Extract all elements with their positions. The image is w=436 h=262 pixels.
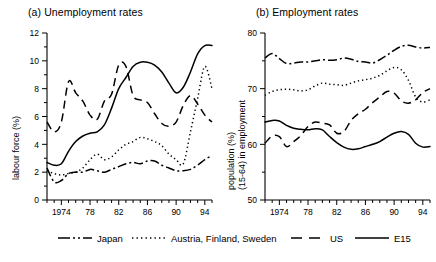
legend-item-e15: E15 — [355, 228, 411, 248]
chart-panel-a: (a) Unemployment rates 02468101219747882… — [0, 0, 218, 225]
x-tick-label: 86 — [143, 207, 153, 217]
legend-label-austria-finland-sweden: Austria, Finland, Sweden — [171, 233, 277, 244]
legend-item-japan: Japan — [58, 228, 123, 248]
series-line-japan — [47, 155, 212, 182]
legend-swatch-austria-finland-sweden — [132, 233, 166, 243]
x-tick-label: 94 — [200, 207, 210, 217]
panel-a-y-axis-label: labour force (%) — [11, 116, 21, 180]
figure-container: (a) Unemployment rates 02468101219747882… — [0, 0, 436, 262]
panel-b-y-axis-label-line1: population (%) — [226, 132, 236, 190]
x-tick-label: 1974 — [270, 207, 289, 217]
legend-swatch-e15 — [355, 233, 389, 243]
panel-b-y-axis-label-line2: (15-64) in employment — [237, 100, 247, 190]
y-tick-label: 70 — [248, 84, 258, 94]
x-tick-label: 78 — [303, 207, 313, 217]
x-tick-label: 1974 — [52, 207, 71, 217]
x-tick-label: 90 — [389, 207, 399, 217]
x-tick-label: 90 — [171, 207, 181, 217]
panel-b-plot: 5060708019747882869094 — [218, 0, 436, 225]
y-tick-label: 80 — [248, 28, 258, 38]
x-tick-label: 94 — [418, 207, 428, 217]
y-tick-label: 60 — [248, 140, 258, 150]
chart-panel-b: (b) Employment rates 5060708019747882869… — [218, 0, 436, 225]
legend-label-japan: Japan — [97, 233, 123, 244]
chart-legend: Japan Austria, Finland, Sweden US E15 — [0, 228, 436, 258]
y-tick-label: 12 — [30, 28, 40, 38]
legend-swatch-japan — [58, 233, 92, 243]
y-tick-label: 10 — [30, 56, 40, 66]
y-tick-label: 50 — [248, 195, 258, 205]
legend-item-austria-finland-sweden: Austria, Finland, Sweden — [132, 228, 277, 248]
panel-b-title: (b) Employment rates — [256, 6, 358, 18]
legend-item-us: US — [291, 228, 343, 248]
series-line-us — [265, 89, 430, 147]
y-tick-label: 4 — [34, 140, 39, 150]
y-tick-label: 2 — [34, 167, 39, 177]
x-tick-label: 78 — [85, 207, 95, 217]
legend-label-e15: E15 — [394, 233, 411, 244]
x-tick-label: 82 — [114, 207, 124, 217]
panel-a-plot: 02468101219747882869094 — [0, 0, 218, 225]
legend-label-us: US — [330, 233, 343, 244]
y-tick-label: 6 — [34, 112, 39, 122]
x-tick-label: 86 — [361, 207, 371, 217]
y-tick-label: 8 — [34, 84, 39, 94]
legend-swatch-us — [291, 233, 325, 243]
x-tick-label: 82 — [332, 207, 342, 217]
series-line-japan — [265, 45, 430, 64]
panel-a-title: (a) Unemployment rates — [28, 6, 143, 18]
series-line-austria-finland-sweden — [265, 67, 430, 102]
y-tick-label: 0 — [34, 195, 39, 205]
